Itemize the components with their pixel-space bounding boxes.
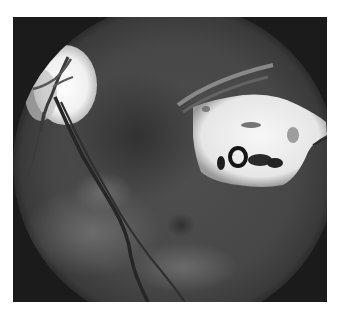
fundus-image xyxy=(13,17,327,302)
pigment-spot xyxy=(241,122,261,128)
pigment-spot xyxy=(267,158,283,168)
pigment-spot xyxy=(202,106,210,112)
fundus-photograph xyxy=(13,17,327,302)
pigment-spot xyxy=(217,156,225,170)
pigment-spot xyxy=(287,127,299,143)
macula xyxy=(167,213,195,237)
